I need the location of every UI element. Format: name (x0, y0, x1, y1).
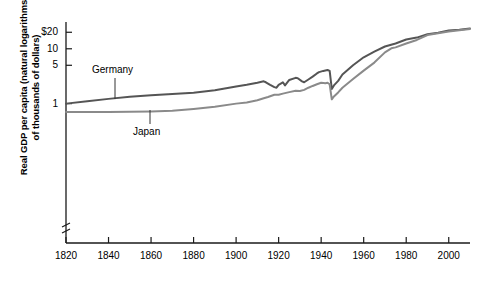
annotation-leader-lines (115, 78, 150, 124)
x-tick-label: 1980 (386, 250, 426, 261)
x-tick-label: 1920 (259, 250, 299, 261)
axes (62, 22, 470, 243)
chart-container: Real GDP per capita (natural logarithms … (0, 0, 483, 284)
x-tick-label: 1840 (89, 250, 129, 261)
y-tick-label: 10 (24, 43, 58, 54)
x-tick-label: 1900 (216, 250, 256, 261)
y-tick-marks (66, 32, 72, 103)
series-annotation-japan: Japan (133, 126, 160, 137)
y-tick-label: 5 (24, 59, 58, 70)
x-tick-label: 1940 (301, 250, 341, 261)
x-tick-label: 1820 (46, 250, 86, 261)
x-tick-label: 1960 (344, 250, 384, 261)
y-tick-label: $20 (24, 26, 58, 37)
series-annotation-germany: Germany (92, 64, 133, 75)
plot-area (0, 0, 483, 284)
x-tick-label: 2000 (429, 250, 469, 261)
y-tick-label: 1 (24, 98, 58, 109)
x-tick-label: 1860 (131, 250, 171, 261)
x-tick-label: 1880 (174, 250, 214, 261)
x-tick-marks (66, 237, 449, 243)
